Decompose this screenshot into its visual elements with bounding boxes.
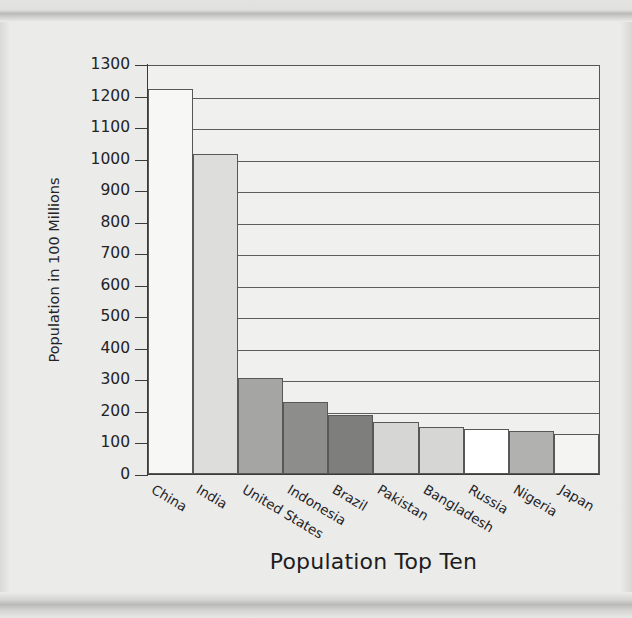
y-axis-tick-label: 500 [68, 309, 130, 325]
y-axis-tick [135, 349, 148, 350]
chart-title: Population Top Ten [147, 549, 600, 574]
bar[interactable] [238, 378, 283, 474]
scanned-page: 0100200300400500600700800900100011001200… [0, 0, 632, 618]
bar[interactable] [328, 415, 373, 474]
bar-slot [554, 66, 599, 474]
bar-slot [373, 66, 418, 474]
bar-slot [328, 66, 373, 474]
y-axis-tick-label: 700 [68, 246, 130, 262]
y-axis-tick-label: 1300 [68, 57, 130, 73]
y-axis-tick-label: 900 [68, 183, 130, 199]
bar[interactable] [509, 431, 554, 474]
y-axis-tick [135, 254, 148, 255]
y-axis-tick-label: 200 [68, 404, 130, 420]
bar-slot [193, 66, 238, 474]
y-axis-tick-label: 800 [68, 215, 130, 231]
x-axis-tick-label: India [194, 481, 231, 512]
bar-chart: 0100200300400500600700800900100011001200… [0, 0, 632, 618]
y-axis-tick-label: 300 [68, 372, 130, 388]
y-axis-tick-label: 0 [68, 467, 130, 483]
y-axis-tick [135, 317, 148, 318]
y-axis-tick [135, 223, 148, 224]
x-axis-tick-label: Pakistan [375, 481, 432, 524]
y-axis-title: Population in 100 Millions [46, 155, 62, 385]
y-axis-tick-label: 600 [68, 278, 130, 294]
x-axis-tick-label: Japan [556, 481, 597, 514]
bar-slot [283, 66, 328, 474]
bar-slot [509, 66, 554, 474]
bar[interactable] [554, 434, 599, 474]
bar[interactable] [464, 429, 509, 474]
y-axis-tick [135, 65, 148, 66]
bar[interactable] [419, 427, 464, 474]
y-axis-line [147, 64, 148, 476]
y-axis-tick [135, 475, 148, 476]
y-axis-tick-label: 1000 [68, 152, 130, 168]
y-axis-tick [135, 97, 148, 98]
y-axis-tick-label: 400 [68, 341, 130, 357]
y-axis-tick [135, 160, 148, 161]
y-axis-tick [135, 128, 148, 129]
bar[interactable] [373, 422, 418, 474]
y-axis-tick [135, 380, 148, 381]
bar[interactable] [148, 89, 193, 474]
x-axis-tick-labels: ChinaIndiaUnited StatesIndonesiaBrazilPa… [147, 477, 600, 547]
y-axis-tick [135, 443, 148, 444]
bar-slot [238, 66, 283, 474]
y-axis-tick-label: 100 [68, 435, 130, 451]
y-axis-tick-label: 1200 [68, 89, 130, 105]
y-axis-tick [135, 191, 148, 192]
x-axis-tick-label: China [149, 481, 190, 515]
x-axis-tick-label: Nigeria [511, 481, 561, 520]
y-axis-tick-label: 1100 [68, 120, 130, 136]
bar[interactable] [283, 402, 328, 474]
bar[interactable] [193, 154, 238, 474]
plot-area [147, 65, 600, 475]
bar-slot [419, 66, 464, 474]
bar-slot [464, 66, 509, 474]
bar-series [148, 66, 599, 474]
bar-slot [148, 66, 193, 474]
y-axis-tick [135, 286, 148, 287]
y-axis-tick [135, 412, 148, 413]
